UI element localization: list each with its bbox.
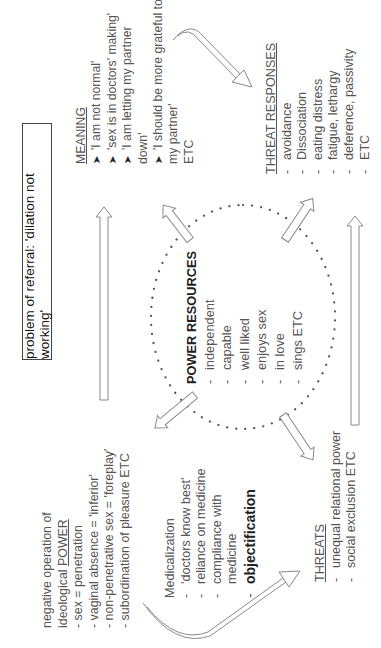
power-resources-heading: POWER RESOURCES	[183, 251, 201, 384]
medicalization-item: -reliance on medicine	[194, 468, 210, 598]
ideology-item: - non-penetrative sex = 'foreplay'	[102, 449, 118, 628]
meaning-item: ➤ 'I am not normal'	[89, 0, 104, 164]
power-resources-block: POWER RESOURCES -independent -capable -w…	[183, 251, 306, 384]
threat-response-item: -avoidance	[280, 43, 296, 174]
threat-item: -unequal relational power	[329, 431, 345, 582]
meaning-heading: MEANING	[74, 0, 89, 164]
diagram-canvas: problem of referral: 'dilation not worki…	[0, 0, 381, 648]
medicalization-heading: Medicalization	[163, 468, 179, 598]
threat-responses-block: THREAT RESPONSES -avoidance -Dissociatio…	[264, 43, 373, 174]
threats-heading: THREATS	[313, 431, 329, 582]
medicalization-item: -'doctors know best'	[179, 468, 195, 598]
medicalization-item: -objectification	[241, 468, 259, 598]
meaning-item: ➤ 'I am letting my partner	[120, 0, 135, 164]
ideology-item: - sex = penetration	[71, 449, 87, 628]
medicalization-block: Medicalization -'doctors know best' -rel…	[163, 468, 259, 598]
meaning-item: ➤ 'sex is in doctors' making'	[105, 0, 120, 164]
threats-block: THREATS -unequal relational power -socia…	[313, 431, 360, 582]
threat-response-item: -deference, passivity	[342, 43, 358, 174]
threat-response-item: -Dissociation	[295, 43, 311, 174]
ideology-item: - vaginal absence = 'inferior'	[87, 449, 103, 628]
meaning-item: ➤ 'I should be more grateful to	[151, 0, 166, 164]
ideology-item: - subordination of pleasure ETC	[118, 449, 134, 628]
arrow-diagonal-icon	[157, 200, 197, 245]
title-box: problem of referral: 'dilation not worki…	[22, 123, 52, 360]
ideological-power-block: negative operation of ideological POWER …	[40, 449, 134, 628]
threat-item: -social exclusion ETC	[344, 431, 360, 582]
power-resource-item: -enjoys sex	[253, 251, 271, 384]
power-resource-item: -in love	[271, 251, 289, 384]
arrow-bullet-icon: ➤	[151, 150, 166, 164]
arrow-right-icon	[96, 207, 112, 400]
medicalization-item: -compliance with	[210, 468, 226, 598]
arrow-diagonal-icon	[150, 389, 200, 434]
meaning-block: MEANING ➤ 'I am not normal' ➤ 'sex is in…	[74, 0, 197, 164]
power-resource-item: -well liked	[236, 251, 254, 384]
threat-response-item: -eating distress	[311, 43, 327, 174]
arrow-bullet-icon: ➤	[120, 150, 135, 164]
arrow-bullet-icon: ➤	[105, 150, 120, 164]
arrow-diagonal-icon	[278, 194, 319, 244]
threat-response-item: -fatigue, lethargy	[326, 43, 342, 174]
title-text: problem of referral: 'dilation not worki…	[22, 124, 52, 359]
threat-responses-etc: -ETC	[358, 43, 374, 174]
arrow-right-icon	[347, 216, 363, 425]
meaning-etc: ETC	[182, 0, 197, 164]
power-resource-item: -sings ETC	[289, 251, 307, 384]
arrow-bullet-icon: ➤	[89, 150, 104, 164]
power-resource-item: -independent	[201, 251, 219, 384]
power-emphasis: POWER	[56, 519, 70, 566]
threat-responses-heading: THREAT RESPONSES	[264, 43, 280, 174]
power-resource-item: -capable	[218, 251, 236, 384]
